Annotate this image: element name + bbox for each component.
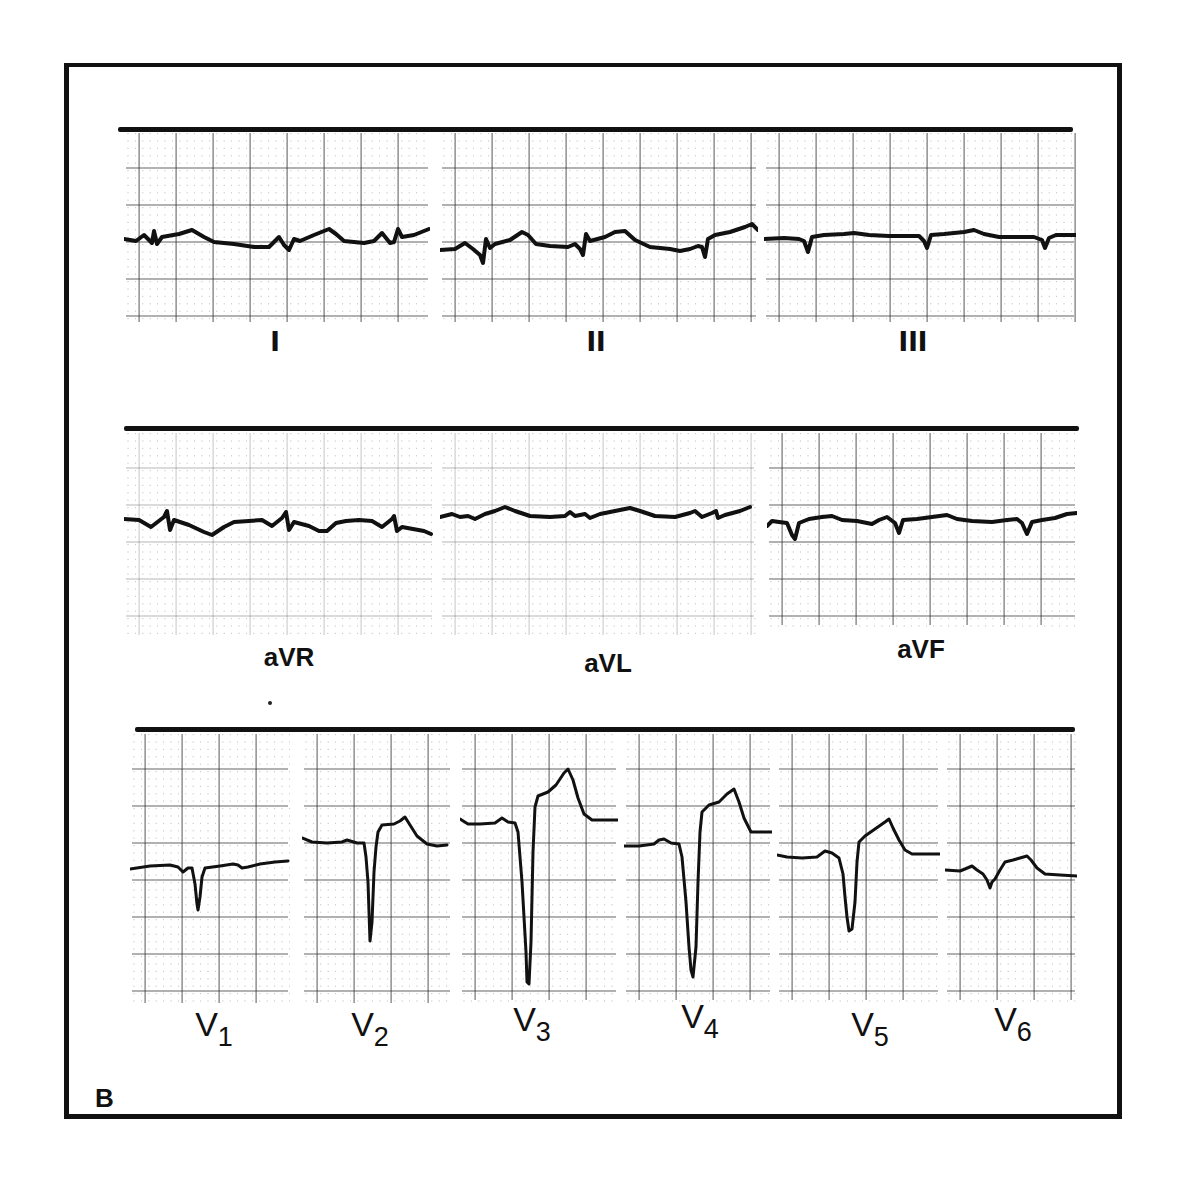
ecg-trace-avr bbox=[124, 511, 431, 535]
lead-strip-v4 bbox=[624, 732, 772, 1004]
lead-label-subscript: 4 bbox=[704, 1014, 719, 1044]
lead-label-base: V bbox=[351, 1005, 374, 1043]
lead-label-iii: III bbox=[867, 324, 959, 358]
ecg-trace-v6 bbox=[945, 856, 1077, 888]
lead-label-v5: V5 bbox=[835, 1005, 905, 1053]
lead-label-ii: II bbox=[550, 324, 642, 358]
lead-label-avf: aVF bbox=[881, 634, 961, 665]
ecg-trace-v3 bbox=[460, 769, 618, 984]
lead-strip-v5 bbox=[777, 732, 940, 1004]
ecg-grid bbox=[302, 732, 452, 1007]
lead-strip-v6 bbox=[945, 732, 1077, 1004]
lead-label-v4: V4 bbox=[665, 997, 735, 1045]
lead-strip-avr bbox=[124, 431, 434, 639]
lead-strip-avf bbox=[767, 431, 1077, 629]
lead-label-subscript: 6 bbox=[1017, 1017, 1032, 1047]
lead-strip-iii bbox=[764, 131, 1076, 326]
ecg-trace-avl bbox=[440, 507, 750, 519]
ecg-grid bbox=[440, 131, 758, 326]
ecg-trace-v1 bbox=[130, 861, 288, 910]
ecg-grid bbox=[624, 732, 772, 1004]
ecg-grid bbox=[440, 431, 756, 639]
lead-label-v3: V3 bbox=[497, 1000, 567, 1048]
ecg-trace-i bbox=[124, 229, 429, 250]
ecg-grid bbox=[130, 732, 290, 1007]
ecg-grid bbox=[767, 431, 1077, 629]
lead-label-v2: V2 bbox=[335, 1005, 405, 1053]
ecg-grid bbox=[777, 732, 940, 1004]
lead-label-subscript: 1 bbox=[218, 1022, 233, 1052]
lead-label-base: V bbox=[851, 1005, 874, 1043]
ecg-trace-v5 bbox=[777, 819, 940, 931]
lead-label-subscript: 2 bbox=[374, 1022, 389, 1052]
lead-strip-ii bbox=[440, 131, 758, 326]
lead-label-subscript: 5 bbox=[874, 1022, 889, 1052]
lead-label-v1: V1 bbox=[179, 1005, 249, 1053]
ecg-trace-avf bbox=[767, 513, 1077, 539]
panel-letter: B bbox=[95, 1083, 114, 1114]
lead-label-base: V bbox=[195, 1005, 218, 1043]
ecg-trace-iii bbox=[764, 230, 1076, 252]
lead-label-base: V bbox=[513, 1000, 536, 1038]
lead-label-base: V bbox=[994, 1000, 1017, 1038]
lead-label-avr: aVR bbox=[249, 642, 329, 673]
ecg-trace-v2 bbox=[302, 817, 447, 941]
lead-strip-avl bbox=[440, 431, 756, 639]
ecg-grid bbox=[764, 131, 1076, 326]
lead-label-subscript: 3 bbox=[536, 1017, 551, 1047]
ecg-grid bbox=[945, 732, 1077, 1004]
lead-strip-v3 bbox=[460, 732, 618, 1004]
lead-label-base: V bbox=[681, 997, 704, 1035]
lead-label-avl: aVL bbox=[568, 648, 648, 679]
lead-strip-v2 bbox=[302, 732, 452, 1007]
lead-label-i: I bbox=[229, 324, 321, 358]
lead-label-v6: V6 bbox=[978, 1000, 1048, 1048]
ecg-grid bbox=[124, 431, 434, 639]
lead-strip-i bbox=[124, 131, 430, 326]
stray-mark bbox=[268, 701, 272, 705]
ecg-grid bbox=[124, 131, 430, 326]
lead-strip-v1 bbox=[130, 732, 290, 1007]
ecg-grid bbox=[460, 732, 618, 1004]
